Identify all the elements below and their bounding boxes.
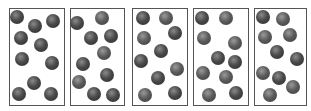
particle-icon bbox=[106, 88, 120, 102]
particle-icon bbox=[196, 66, 210, 80]
particle-icon bbox=[159, 11, 173, 25]
particle-icon bbox=[12, 87, 26, 101]
particle-icon bbox=[228, 55, 242, 69]
particle-icon bbox=[138, 88, 152, 102]
particle-icon bbox=[290, 52, 304, 66]
particle-icon bbox=[100, 68, 114, 82]
particle-icon bbox=[219, 70, 233, 84]
particle-icon bbox=[104, 29, 118, 43]
particle-icon bbox=[211, 51, 225, 65]
particle-icon bbox=[84, 31, 98, 45]
particle-icon bbox=[219, 11, 233, 25]
particle-icon bbox=[70, 16, 84, 30]
particle-icon bbox=[263, 88, 277, 102]
particle-icon bbox=[276, 12, 290, 26]
particle-icon bbox=[136, 11, 150, 25]
particle-icon bbox=[14, 31, 28, 45]
particle-icon bbox=[168, 26, 182, 40]
particle-icon bbox=[256, 10, 270, 24]
particle-icon bbox=[270, 45, 284, 59]
particle-icon bbox=[134, 54, 148, 68]
particle-icon bbox=[45, 56, 59, 70]
particle-icon bbox=[151, 71, 165, 85]
particle-icon bbox=[229, 86, 243, 100]
particle-icon bbox=[95, 11, 109, 25]
particle-icon bbox=[258, 30, 272, 44]
particle-icon bbox=[286, 80, 300, 94]
particle-icon bbox=[202, 88, 216, 102]
particle-icon bbox=[15, 52, 29, 66]
particle-icon bbox=[10, 10, 24, 24]
particle-icon bbox=[283, 28, 297, 42]
particle-icon bbox=[34, 38, 48, 52]
particle-icon bbox=[87, 87, 101, 101]
particle-icon bbox=[137, 31, 151, 45]
particle-icon bbox=[197, 31, 211, 45]
particle-icon bbox=[97, 46, 111, 60]
particle-icon bbox=[46, 14, 60, 28]
particle-icon bbox=[170, 62, 184, 76]
particle-icon bbox=[72, 75, 86, 89]
particle-icon bbox=[228, 36, 242, 50]
particle-icon bbox=[256, 66, 270, 80]
particle-icon bbox=[168, 86, 182, 100]
particle-icon bbox=[44, 87, 58, 101]
particle-icon bbox=[27, 76, 41, 90]
particle-icon bbox=[28, 19, 42, 33]
particle-icon bbox=[272, 71, 286, 85]
particle-icon bbox=[154, 44, 168, 58]
particle-icon bbox=[76, 57, 90, 71]
particle-icon bbox=[195, 11, 209, 25]
